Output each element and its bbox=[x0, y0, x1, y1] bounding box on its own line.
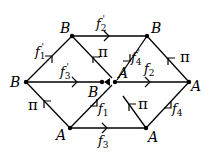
arrow-center-icon bbox=[104, 78, 110, 86]
vertex-center-b bbox=[100, 80, 104, 84]
arrow-pi-top-right-icon bbox=[168, 58, 175, 65]
vertex-label-left: B bbox=[9, 74, 20, 90]
vertex-label-right: A bbox=[189, 78, 201, 94]
label-f1-prime: f1' bbox=[34, 42, 46, 61]
label-f3-prime: f3' bbox=[59, 62, 71, 81]
vertex-label-top-right: B bbox=[150, 20, 161, 36]
label-f2: f2 bbox=[143, 61, 155, 78]
vertex-top-left bbox=[70, 34, 74, 38]
vertex-label-center-a: A bbox=[116, 65, 128, 81]
label-f1: f1 bbox=[97, 101, 109, 118]
label-f4: f4 bbox=[171, 101, 183, 118]
arrow-f4-prime-icon bbox=[123, 54, 130, 61]
vertex-label-bottom-left: A bbox=[54, 127, 66, 143]
label-pi-top-left: π bbox=[98, 43, 108, 61]
vertex-label-center-b: B bbox=[87, 84, 98, 100]
vertex-center-a bbox=[113, 80, 117, 84]
vertex-label-bottom-right: A bbox=[146, 129, 158, 145]
label-pi-bottom: π bbox=[138, 95, 148, 113]
vertex-bottom-left bbox=[68, 126, 72, 130]
arrow-f1-icon bbox=[90, 99, 97, 106]
vertex-label-top-left: B bbox=[59, 20, 70, 36]
label-pi-left: π bbox=[28, 96, 38, 114]
hexagon-diagram: B B B B A A A A f1' f2' f3' f4' f1 f2 f3… bbox=[0, 0, 210, 159]
edge-f4 bbox=[146, 82, 189, 128]
vertex-top-right bbox=[145, 34, 149, 38]
label-f2-prime: f2' bbox=[95, 14, 107, 33]
label-f4-prime: f4' bbox=[130, 48, 142, 67]
vertex-left bbox=[24, 80, 28, 84]
label-pi-top-right: π bbox=[180, 48, 190, 66]
label-f3: f3 bbox=[97, 133, 109, 150]
